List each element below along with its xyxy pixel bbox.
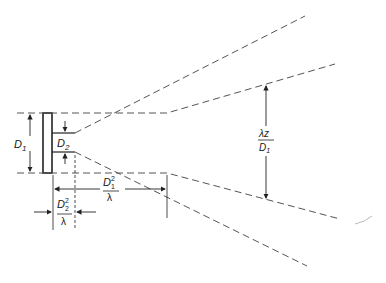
d2-beam-top — [75, 16, 305, 133]
svg-text:λz: λz — [258, 128, 269, 139]
d2sq-over-lambda-label: D 2 2 λ — [57, 197, 72, 227]
lambda-z-over-d1-label: λz D1 — [258, 128, 274, 154]
svg-text:λ: λ — [107, 192, 112, 203]
d1sq-over-lambda-label: D 2 1 λ — [103, 175, 119, 203]
d1-beam-bottom — [17, 173, 340, 219]
stray-mark — [355, 216, 372, 224]
d1-beam-top — [17, 64, 335, 113]
svg-text:D1: D1 — [259, 142, 270, 154]
aperture-plate — [43, 113, 52, 173]
d2-label: D2 — [57, 137, 70, 152]
svg-text:2: 2 — [65, 205, 69, 212]
beam-divergence-diagram: D1 D2 D 2 1 λ D 2 2 λ λz D1 — [0, 0, 386, 283]
svg-text:2: 2 — [111, 175, 115, 182]
d1-label: D1 — [14, 138, 26, 153]
svg-text:λ: λ — [61, 216, 66, 227]
svg-text:2: 2 — [65, 197, 69, 204]
d2-beam-bottom — [75, 152, 307, 266]
svg-text:D: D — [57, 198, 65, 210]
svg-text:D: D — [103, 176, 111, 188]
svg-text:1: 1 — [111, 183, 115, 190]
